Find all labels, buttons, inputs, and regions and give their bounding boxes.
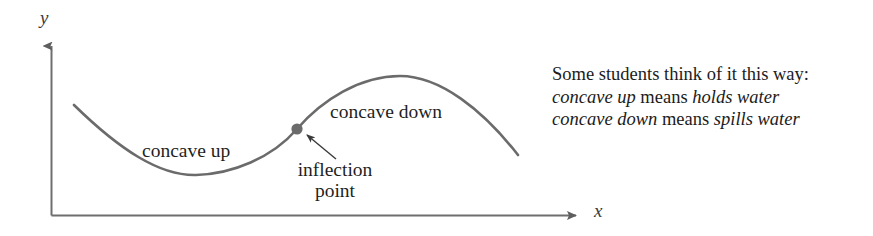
note-line-concave-up-term: concave up: [552, 87, 636, 107]
note-line-concave-up-means: means: [636, 87, 693, 107]
note-line-concave-down-means: means: [657, 109, 714, 129]
x-axis-label: x: [594, 201, 602, 220]
note-heading: Some students think of it this way:: [552, 63, 868, 86]
concave-down-label: concave down: [330, 102, 442, 122]
inflection-point-label-line2: point: [287, 180, 383, 201]
inflection-point-dot: [291, 123, 302, 134]
note-line-concave-down-term: concave down: [552, 109, 657, 129]
concave-up-label: concave up: [142, 141, 230, 161]
student-mnemonic-note: Some students think of it this way: conc…: [552, 63, 868, 131]
note-line-concave-down: concave down means spills water: [552, 108, 868, 131]
note-line-concave-up: concave up means holds water: [552, 86, 868, 109]
note-line-concave-up-meaning: holds water: [692, 87, 779, 107]
concavity-figure: y x concave up concave down inflection p…: [0, 0, 873, 236]
inflection-point-label: inflection point: [287, 159, 383, 201]
inflection-pointer-arrow: [307, 135, 336, 159]
note-line-concave-down-meaning: spills water: [714, 109, 800, 129]
y-axis-label: y: [40, 8, 48, 27]
inflection-point-label-line1: inflection: [287, 159, 383, 180]
